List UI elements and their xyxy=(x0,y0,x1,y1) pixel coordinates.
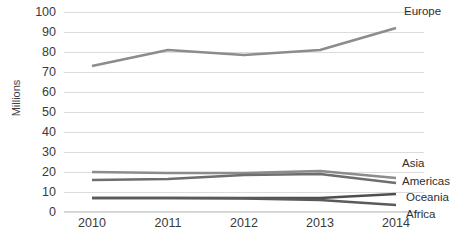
series-label-europe: Europe xyxy=(404,6,441,18)
gridline xyxy=(64,212,424,213)
x-tick-label: 2013 xyxy=(290,216,350,230)
series-line-americas xyxy=(92,174,396,183)
y-tick-label: 80 xyxy=(0,45,56,59)
series-label-oceania: Oceania xyxy=(406,192,449,204)
y-tick-label: 30 xyxy=(0,145,56,159)
x-axis-tick-labels: 20102011201220132014 xyxy=(64,214,424,236)
series-lines xyxy=(64,12,424,212)
y-tick-label: 70 xyxy=(0,65,56,79)
series-label-asia: Asia xyxy=(402,158,424,170)
y-tick-label: 40 xyxy=(0,125,56,139)
series-line-europe xyxy=(92,28,396,66)
x-tick-label: 2011 xyxy=(138,216,198,230)
plot-area xyxy=(64,12,424,212)
y-tick-label: 20 xyxy=(0,165,56,179)
x-tick-label: 2010 xyxy=(62,216,122,230)
y-tick-label: 0 xyxy=(0,205,56,219)
series-label-americas: Americas xyxy=(402,176,450,188)
y-tick-label: 90 xyxy=(0,25,56,39)
x-tick-label: 2012 xyxy=(214,216,274,230)
y-tick-label: 100 xyxy=(0,5,56,19)
y-tick-label: 50 xyxy=(0,105,56,119)
series-label-africa: Africa xyxy=(406,209,435,221)
y-tick-label: 10 xyxy=(0,185,56,199)
y-tick-label: 60 xyxy=(0,85,56,99)
series-line-africa xyxy=(92,198,396,205)
